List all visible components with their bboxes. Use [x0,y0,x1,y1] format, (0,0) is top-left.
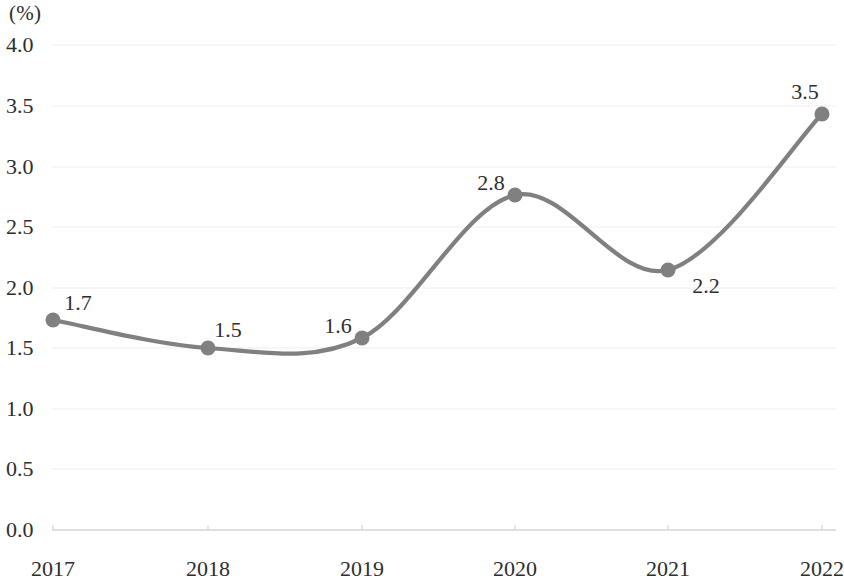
data-point-value-label: 2.8 [477,172,505,194]
y-axis-tick-label: 3.5 [6,95,50,117]
x-axis-tick-label: 2018 [186,558,230,580]
x-axis-tick-label: 2019 [340,558,384,580]
x-axis-tick-label: 2017 [31,558,75,580]
y-axis-tick-label: 1.5 [6,337,50,359]
y-axis-tick-label: 0.0 [6,519,50,541]
data-point-marker [46,313,61,328]
y-axis-tick-label: 1.0 [6,398,50,420]
data-point-value-label: 1.6 [324,315,352,337]
y-axis-tick-label: 2.5 [6,216,50,238]
y-axis-tick-label: 0.5 [6,458,50,480]
data-point-marker [815,107,830,122]
y-axis-tick-label: 4.0 [6,34,50,56]
data-point-value-label: 3.5 [791,81,819,103]
data-point-value-label: 2.2 [692,275,720,297]
x-axis-tick-label: 2021 [646,558,690,580]
data-point-value-label: 1.7 [64,292,92,314]
data-point-marker [201,341,216,356]
series-line [53,114,822,354]
y-axis-tick-label: 2.0 [6,277,50,299]
data-point-value-label: 1.5 [214,319,242,341]
data-point-marker [355,331,370,346]
data-point-marker [661,263,676,278]
data-point-markers [46,107,830,356]
data-point-marker [508,188,523,203]
x-axis-tick-label: 2020 [493,558,537,580]
x-axis-tick-label: 2022 [800,558,844,580]
y-axis-tick-label: 3.0 [6,156,50,178]
